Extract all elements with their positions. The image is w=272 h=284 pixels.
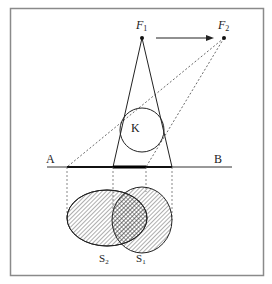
label-s2: S2 — [99, 252, 109, 266]
label-s1: S1 — [136, 252, 146, 266]
diagram-canvas: F1 F2 K A B S2 S1 — [0, 0, 272, 284]
label-b: B — [214, 152, 222, 166]
label-f2: F2 — [217, 18, 229, 33]
object-k-circle — [120, 108, 164, 152]
ray-f2-right — [146, 38, 224, 167]
label-f1: F1 — [135, 18, 147, 33]
motion-arrow — [156, 35, 214, 41]
label-a: A — [46, 152, 55, 166]
label-k: K — [131, 121, 140, 135]
source-f2-dot — [222, 36, 226, 40]
source-f1-dot — [140, 36, 144, 40]
